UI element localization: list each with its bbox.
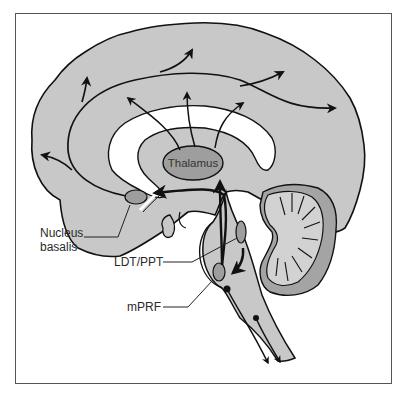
ldt-ppt-nucleus <box>236 221 246 243</box>
mprf-label: mPRF <box>127 300 161 314</box>
pituitary <box>162 215 174 237</box>
nucleus-basalis <box>125 190 147 204</box>
medulla-cell-dot <box>253 315 259 321</box>
nucleus-basalis-label-2: basalis <box>40 240 77 254</box>
mprf-nucleus <box>213 263 225 281</box>
thalamus-label: Thalamus <box>168 157 219 169</box>
brain-diagram: Thalamus Nucleus basalis LDT/PPT <box>0 0 405 401</box>
mprf-cell-dot <box>224 286 231 293</box>
ldt-ppt-label: LDT/PPT <box>114 255 164 269</box>
nucleus-basalis-label-1: Nucleus <box>40 226 83 240</box>
